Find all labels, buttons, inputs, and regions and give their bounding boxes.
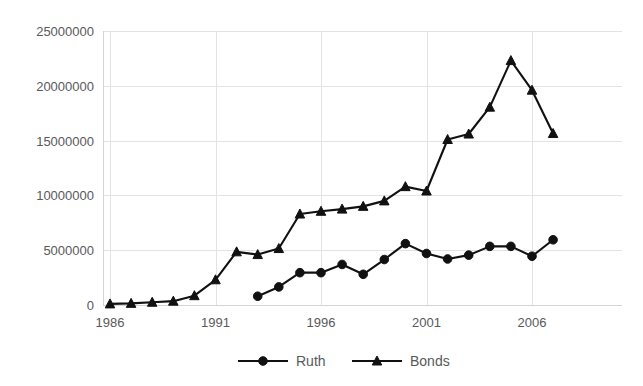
legend-entry-bonds[interactable]: Bonds	[352, 353, 450, 369]
line-chart: 0500000010000000150000002000000025000000…	[0, 0, 643, 386]
series-bonds	[105, 56, 558, 308]
data-point-marker	[464, 251, 473, 260]
legend-label: Bonds	[410, 353, 450, 369]
data-point-marker	[486, 242, 495, 251]
data-point-marker	[548, 128, 558, 137]
data-point-marker	[380, 255, 389, 264]
data-point-marker	[401, 239, 410, 248]
data-point-marker	[253, 292, 262, 301]
chart-canvas: 0500000010000000150000002000000025000000…	[0, 0, 643, 386]
y-axis-tick-labels: 0500000010000000150000002000000025000000	[36, 24, 94, 313]
x-axis-tick-labels: 19861991199620012006	[96, 315, 547, 330]
legend-label: Ruth	[296, 353, 326, 369]
series-line-bonds	[110, 61, 553, 304]
data-series	[105, 56, 558, 308]
x-tick-label: 1991	[201, 315, 230, 330]
data-point-marker	[443, 255, 452, 264]
data-point-marker	[506, 56, 516, 65]
gridlines	[103, 31, 622, 306]
y-tick-label: 15000000	[36, 134, 94, 149]
data-point-marker	[422, 249, 431, 258]
data-point-marker	[359, 270, 368, 279]
data-point-marker	[380, 196, 390, 205]
x-tick-label: 1996	[307, 315, 336, 330]
data-point-marker	[485, 102, 495, 111]
y-tick-label: 5000000	[43, 243, 94, 258]
y-tick-label: 25000000	[36, 24, 94, 39]
data-point-marker	[338, 260, 347, 269]
y-tick-label: 10000000	[36, 188, 94, 203]
data-point-marker	[296, 268, 305, 277]
data-point-marker	[317, 268, 326, 277]
data-point-marker	[549, 235, 558, 244]
data-point-marker	[507, 242, 516, 251]
data-point-marker	[259, 357, 268, 366]
legend-entry-ruth[interactable]: Ruth	[238, 353, 326, 369]
y-tick-label: 20000000	[36, 79, 94, 94]
x-tick-label: 2006	[518, 315, 547, 330]
data-point-marker	[528, 252, 537, 261]
axes	[103, 31, 622, 306]
x-tick-label: 2001	[412, 315, 441, 330]
data-point-marker	[401, 182, 411, 191]
x-tick-label: 1986	[96, 315, 125, 330]
y-tick-label: 0	[87, 298, 94, 313]
chart-legend: RuthBonds	[238, 353, 450, 369]
data-point-marker	[275, 283, 284, 292]
series-ruth	[253, 235, 557, 300]
